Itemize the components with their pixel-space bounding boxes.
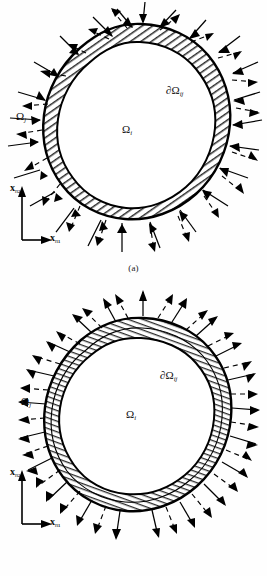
panel-caption-a: (a) xyxy=(0,263,267,273)
panel-b: Ωi Ωj ∂Ωij xn2 xn1 (b) xyxy=(0,288,267,576)
panel-a-drawing xyxy=(0,0,267,288)
label-domain-omega-j-b: Ωj xyxy=(21,396,31,409)
figure-page: Ωi Ωj ∂Ωij xn2 xn1 (a) xyxy=(0,0,267,576)
panel-b-drawing xyxy=(0,288,267,576)
label-domain-omega-i-b: Ωi xyxy=(126,409,136,422)
label-domain-omega-i-a: Ωi xyxy=(122,124,132,137)
axis-label-xn1-a: xn1 xyxy=(50,233,60,245)
label-interface-domega-ij-b: ∂Ωij xyxy=(160,370,177,383)
axis-label-xn2-b: xn2 xyxy=(10,467,20,479)
label-domain-omega-j-a: Ωj xyxy=(16,111,26,124)
axis-label-xn1-b: xn1 xyxy=(50,517,60,529)
label-interface-domega-ij-a: ∂Ωij xyxy=(166,85,183,98)
axis-label-xn2-a: xn2 xyxy=(10,183,20,195)
panel-a: Ωi Ωj ∂Ωij xn2 xn1 (a) xyxy=(0,0,267,288)
axis-arrowheads-a xyxy=(18,186,52,244)
interface-band-b xyxy=(44,318,231,511)
